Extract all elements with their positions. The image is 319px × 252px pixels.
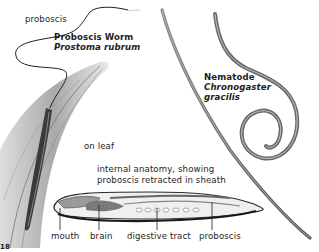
proboscis-worm-common-name: Proboscis Worm (54, 32, 133, 42)
label-mouth: mouth (51, 231, 79, 241)
nematode-genus: Chronogaster (204, 82, 271, 92)
internal-anatomy-diagram (54, 192, 263, 230)
anatomy-caption-line1: internal anatomy, showing (97, 164, 214, 174)
proboscis-top-label: proboscis (25, 14, 67, 24)
label-proboscis: proboscis (199, 231, 241, 241)
label-brain: brain (90, 231, 113, 241)
label-digestive-tract: digestive tract (127, 231, 191, 241)
nematode-species: gracilis (204, 92, 240, 102)
on-leaf-label: on leaf (84, 141, 114, 151)
nematode-common-name: Nematode (204, 72, 255, 82)
anatomy-caption-line2: proboscis retracted in sheath (97, 175, 226, 185)
proboscis-worm-scientific-name: Prostoma rubrum (54, 42, 140, 52)
page-number-fragment: 18 (0, 242, 10, 252)
